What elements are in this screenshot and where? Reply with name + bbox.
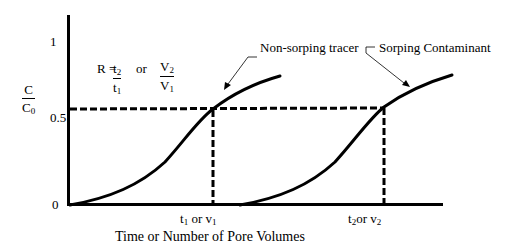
tracer-curve — [70, 76, 280, 205]
x-tick-t2: t2or v2 — [348, 212, 381, 227]
y-axis-label: C C0 — [22, 83, 35, 116]
fraction-bar — [22, 98, 35, 99]
contaminant-annotation: Sorping Contaminant — [379, 41, 491, 54]
equation-or: or — [136, 62, 147, 75]
y-label-denominator: C0 — [22, 101, 35, 116]
breakthrough-diagram — [0, 0, 506, 245]
fraction-bar — [113, 78, 121, 79]
x-axis-label: Time or Number of Pore Volumes — [115, 230, 305, 244]
tracer-leader-line — [228, 57, 257, 84]
arrowhead-icon — [224, 82, 231, 90]
y-tick-half: 0.5 — [50, 111, 66, 124]
y-tick-0: 0 — [52, 198, 59, 211]
equation-fraction-t: t2 t1 — [113, 62, 121, 97]
y-tick-1: 1 — [50, 35, 57, 48]
fraction-numerator: V2 — [160, 60, 174, 75]
fraction-denominator: V1 — [160, 79, 174, 94]
fraction-denominator: t1 — [113, 81, 121, 96]
x-tick-t1: t1 or v1 — [180, 212, 216, 227]
fraction-bar — [160, 76, 174, 77]
tracer-annotation: Non-sorping tracer — [260, 41, 359, 54]
fraction-numerator: t2 — [113, 62, 121, 77]
equation-fraction-v: V2 V1 — [160, 60, 174, 95]
half-concentration-line — [70, 108, 384, 109]
arrowhead-icon — [402, 80, 410, 87]
y-label-numerator: C — [24, 83, 33, 97]
contaminant-curve — [240, 75, 452, 205]
